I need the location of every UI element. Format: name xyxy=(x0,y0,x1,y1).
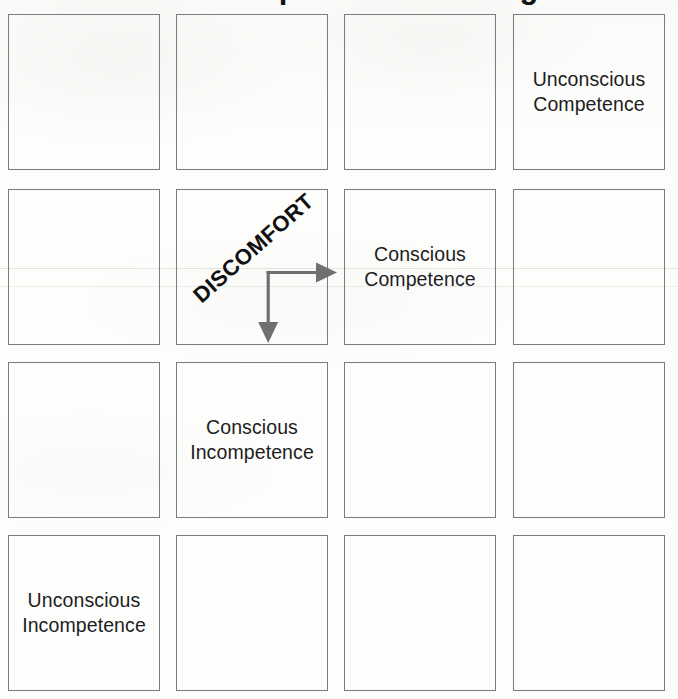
stage-label: UnconsciousCompetence xyxy=(529,67,650,117)
arrow-corner xyxy=(267,271,270,274)
empty-box-r3c3 xyxy=(344,362,496,518)
empty-box-r1c1 xyxy=(8,14,160,170)
empty-box-r4c3 xyxy=(344,535,496,691)
diagram-title: Conscious Competence Learning Model xyxy=(0,0,678,6)
empty-box-r4c4 xyxy=(513,535,665,691)
stage-box-r3c2: ConsciousIncompetence xyxy=(176,362,328,518)
empty-box-r3c1 xyxy=(8,362,160,518)
empty-box-r1c3 xyxy=(344,14,496,170)
empty-box-r1c2 xyxy=(176,14,328,170)
arrow-right-icon xyxy=(267,263,337,283)
empty-box-r3c4 xyxy=(513,362,665,518)
stage-box-r2c3: ConsciousCompetence xyxy=(344,189,496,345)
stage-label: ConsciousIncompetence xyxy=(186,415,318,465)
empty-box-r2c1 xyxy=(8,189,160,345)
stage-label: ConsciousCompetence xyxy=(360,242,480,292)
discomfort-arrow-group xyxy=(255,258,350,353)
stage-box-r4c1: UnconsciousIncompetence xyxy=(8,535,160,691)
empty-box-r2c4 xyxy=(513,189,665,345)
stage-box-r1c4: UnconsciousCompetence xyxy=(513,14,665,170)
empty-box-r4c2 xyxy=(176,535,328,691)
arrow-down-icon xyxy=(258,271,278,343)
diagram-canvas: Conscious Competence Learning Model Unco… xyxy=(0,0,678,699)
stage-label: UnconsciousIncompetence xyxy=(18,588,150,638)
